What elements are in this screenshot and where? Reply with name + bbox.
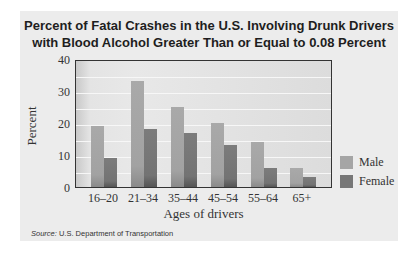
x-tick-label: 35–44 bbox=[163, 191, 203, 206]
bar-male bbox=[290, 168, 303, 187]
x-tick-label: 45–54 bbox=[203, 191, 243, 206]
y-axis-label: Percent bbox=[24, 107, 40, 146]
bar-female bbox=[224, 145, 237, 187]
y-tick-label: 20 bbox=[50, 118, 70, 130]
y-tick-label: 30 bbox=[50, 86, 70, 98]
chart-title: Percent of Fatal Crashes in the U.S. Inv… bbox=[20, 17, 398, 51]
source-note: Source: U.S. Department of Transportatio… bbox=[31, 229, 173, 238]
bar-male bbox=[171, 107, 184, 187]
y-tick-label: 0 bbox=[50, 182, 70, 194]
y-tick-label: 40 bbox=[50, 54, 70, 66]
bar-female bbox=[104, 158, 117, 187]
chart-title-line-1: Percent of Fatal Crashes in the U.S. Inv… bbox=[20, 17, 398, 34]
x-tick-label: 55–64 bbox=[243, 191, 283, 206]
bar-female bbox=[264, 168, 277, 187]
plot-area bbox=[75, 60, 332, 188]
bar-female bbox=[303, 177, 316, 187]
x-tick-label: 16–20 bbox=[83, 191, 123, 206]
gridline bbox=[76, 93, 331, 94]
bar-male bbox=[131, 81, 144, 187]
source-label: Source: bbox=[31, 229, 57, 238]
legend-label-female: Female bbox=[359, 174, 394, 189]
legend-swatch-male bbox=[340, 156, 353, 169]
bar-male bbox=[211, 123, 224, 187]
legend-label-male: Male bbox=[359, 155, 384, 170]
x-tick-label: 21–34 bbox=[123, 191, 163, 206]
x-axis-label: Ages of drivers bbox=[75, 206, 332, 222]
bar-female bbox=[184, 133, 197, 187]
chart-title-line-2: with Blood Alcohol Greater Than or Equal… bbox=[20, 34, 398, 51]
legend-item-male: Male bbox=[340, 155, 384, 169]
x-tick-label: 65+ bbox=[282, 191, 322, 206]
bar-female bbox=[144, 129, 157, 187]
source-text: U.S. Department of Transportation bbox=[59, 229, 173, 238]
bar-male bbox=[91, 126, 104, 187]
y-tick-label: 10 bbox=[50, 150, 70, 162]
legend-swatch-female bbox=[340, 175, 353, 188]
gridline bbox=[76, 77, 331, 78]
gridline bbox=[76, 109, 331, 110]
legend-item-female: Female bbox=[340, 174, 394, 188]
gridline bbox=[76, 141, 331, 142]
gridline bbox=[76, 125, 331, 126]
bar-male bbox=[251, 142, 264, 187]
